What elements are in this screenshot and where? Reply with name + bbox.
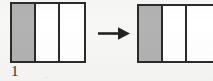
fraction-cell-right-3 [187,6,213,61]
right-arrow-icon [97,26,130,41]
fraction-bar-right [137,4,213,63]
label-faint-mark: . [45,70,48,80]
fraction-cell-right-1 [139,6,163,61]
fraction-cell-left-3 [60,4,84,61]
label-one: 1 [11,64,19,79]
fraction-cell-left-1 [12,4,36,61]
fraction-cell-left-2 [36,4,60,61]
diagram-canvas: 1 . [0,0,213,81]
fraction-bar-left [10,2,86,63]
fraction-cell-right-2 [163,6,187,61]
